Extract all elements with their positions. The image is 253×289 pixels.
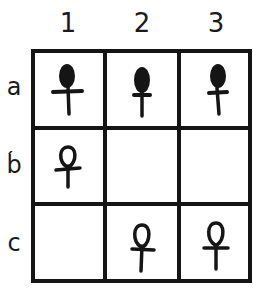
row-label-b: b́ (0, 150, 28, 180)
ankh-outline-icon (196, 215, 236, 275)
column-label-2: 2 (105, 8, 179, 38)
column-label-1: 1 (31, 8, 105, 38)
cell-c1 (31, 204, 105, 282)
ankh-filled-icon (196, 60, 236, 120)
ankh-filled-icon (122, 60, 162, 120)
cell-b1 (31, 128, 105, 206)
ankh-outline-icon (122, 215, 162, 275)
cell-c3 (179, 206, 253, 284)
cell-a3 (179, 51, 253, 129)
cell-b3 (179, 128, 253, 206)
ankh-outline-icon (48, 137, 88, 197)
row-label-a: a (0, 72, 28, 102)
row-label-c: c (0, 228, 28, 258)
cell-c2 (105, 206, 179, 284)
cell-a2 (105, 51, 179, 129)
column-label-3: 3 (179, 8, 253, 38)
cell-b2 (105, 128, 179, 206)
ankh-filled-icon (48, 60, 88, 120)
cell-a1 (31, 51, 105, 129)
